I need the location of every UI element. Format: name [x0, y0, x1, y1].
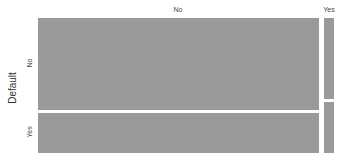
x-label-yes: Yes — [323, 6, 334, 13]
tile-no-no — [38, 18, 319, 110]
y-axis-title: Default — [7, 72, 18, 104]
x-label-no: No — [174, 6, 183, 13]
tile-no-yes — [38, 113, 319, 153]
y-label-yes: Yes — [26, 126, 33, 137]
y-label-no: No — [26, 59, 33, 68]
tile-yes-no — [324, 18, 334, 99]
tile-yes-yes — [324, 102, 334, 153]
